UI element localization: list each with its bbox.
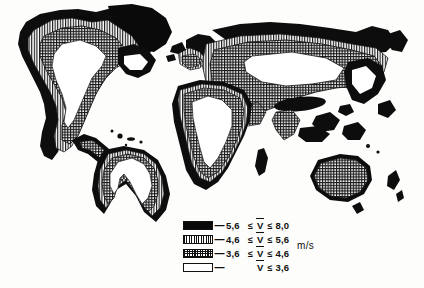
swatch-vertical-lines bbox=[183, 235, 213, 244]
legend-symbol-v: V bbox=[256, 220, 265, 231]
legend-high-value: 8,0 bbox=[276, 220, 295, 231]
legend-relation-low: ≤ bbox=[245, 249, 256, 260]
legend-dash: — bbox=[213, 263, 226, 272]
legend-symbol-v: V bbox=[256, 248, 265, 259]
legend-row: — 3,6≤V≤4,6 bbox=[183, 247, 358, 260]
legend-symbol-v: V bbox=[256, 262, 265, 273]
legend: — 5,6≤V≤8,0 — 4,6≤V≤5,6 — 3,6≤V≤4,6 — V≤… bbox=[183, 219, 358, 279]
legend-row: — 4,6≤V≤5,6 bbox=[183, 233, 358, 246]
swatch-solid-black bbox=[183, 221, 213, 230]
legend-relation-high: ≤ bbox=[265, 235, 276, 246]
legend-label: V≤3,6 bbox=[226, 262, 295, 274]
legend-low-value: 4,6 bbox=[226, 234, 245, 245]
legend-dash: — bbox=[213, 235, 226, 244]
legend-relation-low: ≤ bbox=[245, 235, 256, 246]
hispaniola-island bbox=[127, 137, 135, 141]
legend-row: — 5,6≤V≤8,0 bbox=[183, 219, 358, 232]
legend-low-value: 3,6 bbox=[226, 248, 245, 259]
bahamas-island bbox=[111, 130, 114, 133]
swatch-cross-hatch bbox=[183, 249, 213, 258]
legend-low-value: 5,6 bbox=[226, 220, 245, 231]
cuba-island bbox=[117, 133, 122, 138]
vanuatu-islands bbox=[376, 150, 379, 153]
puerto-rico-island bbox=[139, 140, 142, 143]
legend-high-value: 5,6 bbox=[276, 234, 295, 245]
legend-symbol-v: V bbox=[256, 234, 265, 245]
legend-label: 5,6≤V≤8,0 bbox=[226, 220, 295, 232]
legend-row: — V≤3,6 bbox=[183, 261, 358, 274]
legend-relation-high: ≤ bbox=[265, 249, 276, 260]
legend-high-value: 3,6 bbox=[276, 262, 295, 273]
legend-relation-low: ≤ bbox=[245, 221, 256, 232]
wind-speed-world-map-figure: — 5,6≤V≤8,0 — 4,6≤V≤5,6 — 3,6≤V≤4,6 — V≤… bbox=[0, 0, 424, 288]
legend-relation-high: ≤ bbox=[265, 221, 276, 232]
legend-high-value: 4,6 bbox=[276, 248, 295, 259]
swatch-white-blank bbox=[183, 263, 213, 272]
legend-dash: — bbox=[213, 221, 226, 230]
jamaica-island bbox=[125, 144, 127, 146]
legend-label: 4,6≤V≤5,6 bbox=[226, 234, 295, 246]
legend-label: 3,6≤V≤4,6 bbox=[226, 248, 295, 260]
legend-dash: — bbox=[213, 249, 226, 258]
legend-unit-label: m/s bbox=[297, 240, 314, 251]
solomon-islands bbox=[366, 144, 370, 148]
legend-relation-high: ≤ bbox=[265, 263, 276, 274]
